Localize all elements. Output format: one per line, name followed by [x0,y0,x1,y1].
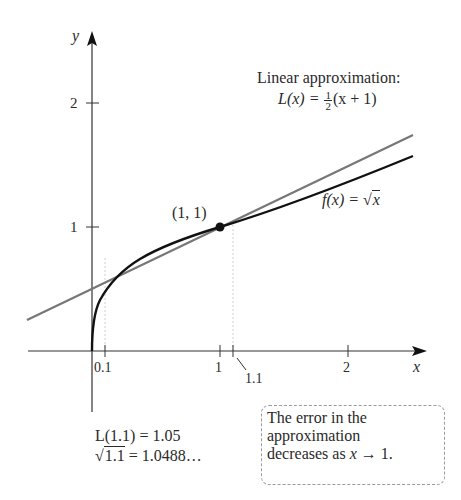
sqrt-symbol-icon: √ [95,447,104,464]
tangent-point [216,223,225,232]
note-line-3: decreases as x → 1. [267,445,439,463]
calc-linear-value: L(1.1) = 1.05 [95,427,180,445]
x-tick-label-1.1: 1.1 [245,370,263,388]
x-tick-label-0.1: 0.1 [94,359,112,377]
linear-rhs: (x + 1) [333,90,377,107]
function-label: f(x) = √x [322,191,380,209]
sqrt-symbol-icon: √ [363,191,372,208]
x-tick-label-2: 2 [343,359,350,377]
fraction-half: 12 [324,90,332,111]
x-axis-label: x [413,358,420,376]
y-tick-label-2: 2 [70,94,78,112]
x-tick-label-1: 1 [215,359,222,377]
linear-approx-formula: L(x) = 12(x + 1) [278,88,377,110]
linear-lhs: L(x) = [278,90,319,107]
note-line-2: approximation [267,427,439,445]
point-label: (1, 1) [172,204,207,222]
leader-1.1 [237,358,246,370]
linear-approx-title: Linear approximation: [257,69,401,87]
note-line-1: The error in the [267,409,439,427]
y-axis-label: y [72,27,79,45]
sqrt-curve [92,156,413,351]
y-tick-label-1: 1 [70,218,78,236]
error-note-box: The error in the approximation decreases… [261,405,445,485]
calc-sqrt-value: √1.1 = 1.0488… [95,447,202,465]
